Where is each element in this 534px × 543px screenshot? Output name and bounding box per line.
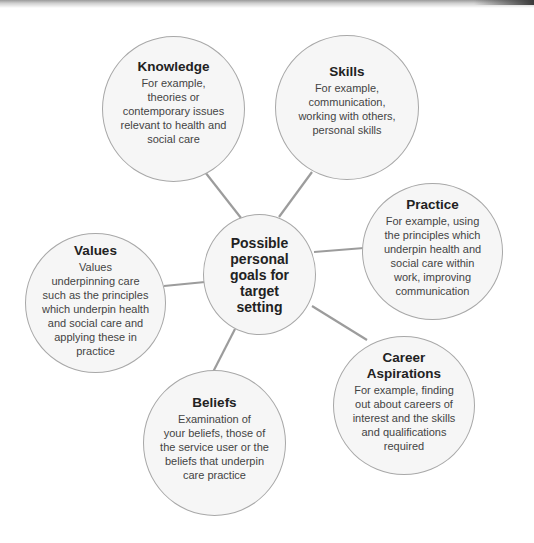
node-description: Values underpinning care such as the pri… <box>42 260 149 358</box>
connector-career <box>312 306 367 340</box>
connector-knowledge <box>205 172 241 218</box>
node-title: Career Aspirations <box>367 350 441 382</box>
node-center-possible-personal-goals: Possible personal goals for target setti… <box>203 214 316 335</box>
node-career-aspirations: Career Aspirations For example, finding … <box>333 336 475 475</box>
node-beliefs: Beliefs Examination of your beliefs, tho… <box>143 370 286 516</box>
connector-values <box>164 282 205 286</box>
connector-beliefs <box>213 329 235 372</box>
node-skills: Skills For example, communication, worki… <box>275 35 419 180</box>
node-description: For example, theories or contemporary is… <box>121 76 227 146</box>
node-description: Examination of your beliefs, those of th… <box>160 412 269 482</box>
node-title: Knowledge <box>137 59 209 75</box>
node-description: For example, communication, working with… <box>298 81 395 137</box>
node-knowledge: Knowledge For example, theories or conte… <box>102 36 245 182</box>
connector-skills <box>279 172 312 217</box>
node-description: For example, finding out about careers o… <box>353 383 456 453</box>
center-title: Possible personal goals for target setti… <box>230 235 289 315</box>
node-title: Practice <box>406 197 459 213</box>
node-practice: Practice For example, using the principl… <box>362 183 503 320</box>
node-values: Values Values underpinning care such as … <box>25 233 166 373</box>
connector-practice <box>314 248 364 252</box>
node-title: Skills <box>329 64 364 80</box>
node-description: For example, using the principles which … <box>384 214 481 298</box>
node-title: Values <box>74 243 117 259</box>
node-title: Beliefs <box>192 395 236 411</box>
